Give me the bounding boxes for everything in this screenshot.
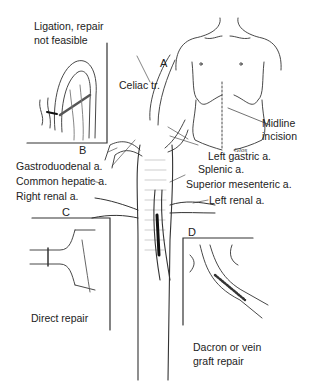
- label-right-renal: Right renal a.: [16, 190, 78, 202]
- label-splenic: Splenic a.: [198, 163, 244, 175]
- panel-b-caption-line1: Ligation, repair: [34, 20, 103, 32]
- label-left-gastric: Left gastric a.: [208, 150, 271, 162]
- panel-c-caption: Direct repair: [31, 312, 88, 324]
- label-celiac-trunk: Celiac tr.: [119, 79, 160, 91]
- panel-d-caption-line1: Dacron or vein: [193, 341, 261, 353]
- panel-c-letter: C: [62, 206, 70, 218]
- panel-d-letter: D: [188, 226, 196, 238]
- panel-a-caption-line1: Midline: [262, 117, 295, 129]
- panel-d-caption-line2: graft repair: [193, 355, 244, 367]
- panel-d-frame: [183, 238, 253, 325]
- label-common-hepatic: Common hepatic a.: [16, 175, 107, 187]
- label-gastroduodenal: Gastroduodenal a.: [16, 160, 102, 172]
- panel-a-caption-line2: incision: [262, 130, 297, 142]
- panel-a-letter: A: [160, 57, 167, 69]
- label-left-renal: Left renal a.: [209, 194, 264, 206]
- panel-b-caption-line2: not feasible: [34, 34, 88, 46]
- panel-b-letter: B: [79, 144, 86, 156]
- label-superior-mesenteric: Superior mesenteric a.: [186, 178, 292, 190]
